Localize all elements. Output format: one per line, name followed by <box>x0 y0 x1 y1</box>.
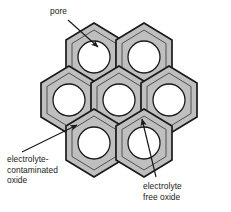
pore-circle <box>128 41 160 73</box>
pore-circle <box>103 84 135 116</box>
label-electrolyte-free-oxide: electrolyte free oxide <box>143 181 182 202</box>
pore-circle <box>128 127 160 159</box>
pore-circle <box>78 41 110 73</box>
pore-circle <box>78 127 110 159</box>
figure-container: pore electrolyte- contaminated oxide ele… <box>0 0 231 212</box>
label-electrolyte-contaminated-oxide: electrolyte- contaminated oxide <box>7 154 58 186</box>
pore-circle <box>153 84 185 116</box>
hexagon-cells <box>41 23 197 177</box>
label-pore: pore <box>50 6 67 17</box>
pore-circle <box>53 84 85 116</box>
